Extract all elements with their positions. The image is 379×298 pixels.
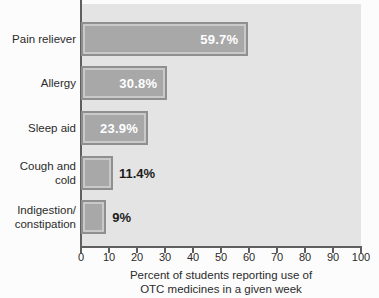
category-label: Allergy xyxy=(2,76,76,90)
x-tick-label: 50 xyxy=(207,251,235,263)
x-tick-label: 0 xyxy=(67,251,95,263)
bar: 23.9% xyxy=(81,111,148,145)
bar-value-label: 11.4% xyxy=(119,166,155,181)
x-tick-label: 60 xyxy=(235,251,263,263)
bar: 59.7% xyxy=(81,22,248,56)
bar: 30.8% xyxy=(81,66,167,100)
bar-fill: 23.9% xyxy=(85,115,144,141)
category-label: Cough and cold xyxy=(2,159,76,188)
x-tick-label: 40 xyxy=(179,251,207,263)
x-axis-title: Percent of students reporting use of OTC… xyxy=(81,268,361,297)
bar-fill xyxy=(85,204,102,230)
x-tick-label: 70 xyxy=(263,251,291,263)
x-tick-label: 80 xyxy=(291,251,319,263)
bar-fill: 30.8% xyxy=(85,70,163,96)
bar-value-label: 59.7% xyxy=(200,32,238,47)
x-tick-label: 20 xyxy=(123,251,151,263)
bar-value-label: 23.9% xyxy=(100,121,138,136)
x-tick-label: 90 xyxy=(319,251,347,263)
bar-value-label: 30.8% xyxy=(119,76,157,91)
x-tick-label: 10 xyxy=(95,251,123,263)
bar-value-label: 9% xyxy=(112,210,131,225)
category-label: Sleep aid xyxy=(2,121,76,135)
category-label: Pain reliever xyxy=(2,32,76,46)
bar xyxy=(81,156,113,190)
x-tick-label: 100 xyxy=(347,251,375,263)
otc-medicine-bar-chart: 0102030405060708090100 Pain reliever59.7… xyxy=(0,0,379,298)
x-tick-label: 30 xyxy=(151,251,179,263)
bar-fill xyxy=(85,160,109,186)
bar-fill: 59.7% xyxy=(85,26,244,52)
bar xyxy=(81,200,106,234)
category-label: Indigestion/ constipation xyxy=(2,203,76,232)
